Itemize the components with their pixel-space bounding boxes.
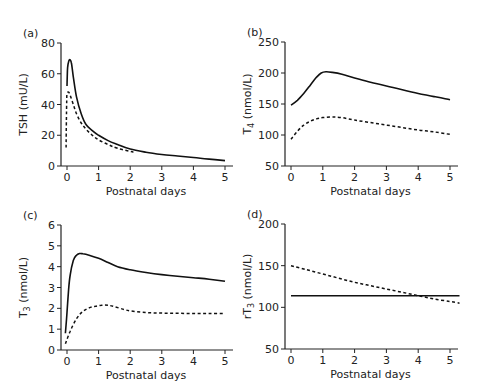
y-tick-label: 100	[258, 301, 279, 314]
series-solid-line	[291, 72, 450, 105]
x-tick-label: 5	[222, 355, 229, 368]
y-tick-label: 20	[41, 129, 55, 142]
y-tick-label: 200	[258, 67, 279, 80]
x-tick-label: 5	[447, 354, 454, 367]
y-tick-label: 150	[258, 260, 279, 273]
x-tick-label: 0	[288, 171, 295, 184]
y-tick-label: 150	[258, 98, 279, 111]
x-tick-label: 3	[158, 171, 165, 184]
x-axis-label: Postnatal days	[106, 185, 187, 198]
y-tick-label: 1	[48, 323, 55, 336]
series-dashed-line	[291, 117, 450, 139]
x-tick-label: 3	[383, 354, 390, 367]
x-tick-label: 2	[351, 171, 358, 184]
y-tick-label: 4	[48, 261, 55, 274]
x-tick-label: 1	[95, 355, 102, 368]
y-axis-label: TSH (mU/L)	[17, 73, 30, 137]
y-tick-label: 60	[41, 68, 55, 81]
y-tick-label: 3	[48, 282, 55, 295]
x-tick-label: 5	[447, 171, 454, 184]
x-tick-label: 0	[64, 355, 71, 368]
y-tick-label: 200	[258, 218, 279, 231]
panel-b: (b)50100150200250012345Postnatal daysT4 …	[241, 26, 458, 198]
figure: (a)020406080012345Postnatal daysTSH (mU/…	[0, 0, 484, 392]
y-tick-label: 250	[258, 36, 279, 49]
y-axis-label: T3 (nmol/L)	[17, 257, 32, 319]
x-tick-label: 0	[64, 171, 71, 184]
x-tick-label: 1	[319, 171, 326, 184]
x-tick-label: 4	[190, 355, 197, 368]
y-axis-label: rT3 (nmol/L)	[241, 254, 256, 320]
panel-label: (c)	[23, 209, 38, 222]
y-tick-label: 2	[48, 302, 55, 315]
y-tick-label: 0	[48, 160, 55, 173]
x-tick-label: 5	[222, 171, 229, 184]
x-tick-label: 2	[127, 355, 134, 368]
x-axis-label: Postnatal days	[106, 369, 187, 382]
y-tick-label: 0	[48, 344, 55, 357]
x-tick-label: 2	[351, 354, 358, 367]
x-tick-label: 4	[190, 171, 197, 184]
x-tick-label: 1	[95, 171, 102, 184]
x-axis-label: Postnatal days	[330, 185, 411, 198]
panel-label: (a)	[23, 27, 38, 40]
y-tick-label: 80	[41, 37, 55, 50]
panel-c: (c)0123456012345Postnatal daysT3 (nmol/L…	[17, 209, 233, 382]
series-dashed-line	[66, 92, 133, 152]
series-solid-line	[65, 253, 225, 333]
x-tick-label: 1	[319, 354, 326, 367]
x-axis-label: Postnatal days	[330, 368, 411, 381]
panel-d: (d)50100150200012345Postnatal daysrT3 (n…	[241, 208, 460, 381]
x-tick-label: 3	[158, 355, 165, 368]
series-dashed-line	[65, 305, 225, 344]
y-axis-label: T4 (nmol/L)	[241, 73, 256, 135]
y-tick-label: 100	[258, 129, 279, 142]
panel-a: (a)020406080012345Postnatal daysTSH (mU/…	[17, 27, 233, 198]
x-tick-label: 3	[383, 171, 390, 184]
series-solid-line	[67, 60, 225, 161]
series-dashed-line	[291, 266, 460, 304]
x-tick-label: 4	[415, 354, 422, 367]
y-tick-label: 40	[41, 99, 55, 112]
y-tick-label: 6	[48, 219, 55, 232]
y-tick-label: 5	[48, 240, 55, 253]
x-tick-label: 4	[415, 171, 422, 184]
y-tick-label: 50	[265, 343, 279, 356]
y-tick-label: 50	[265, 160, 279, 173]
x-tick-label: 2	[127, 171, 134, 184]
x-tick-label: 0	[288, 354, 295, 367]
